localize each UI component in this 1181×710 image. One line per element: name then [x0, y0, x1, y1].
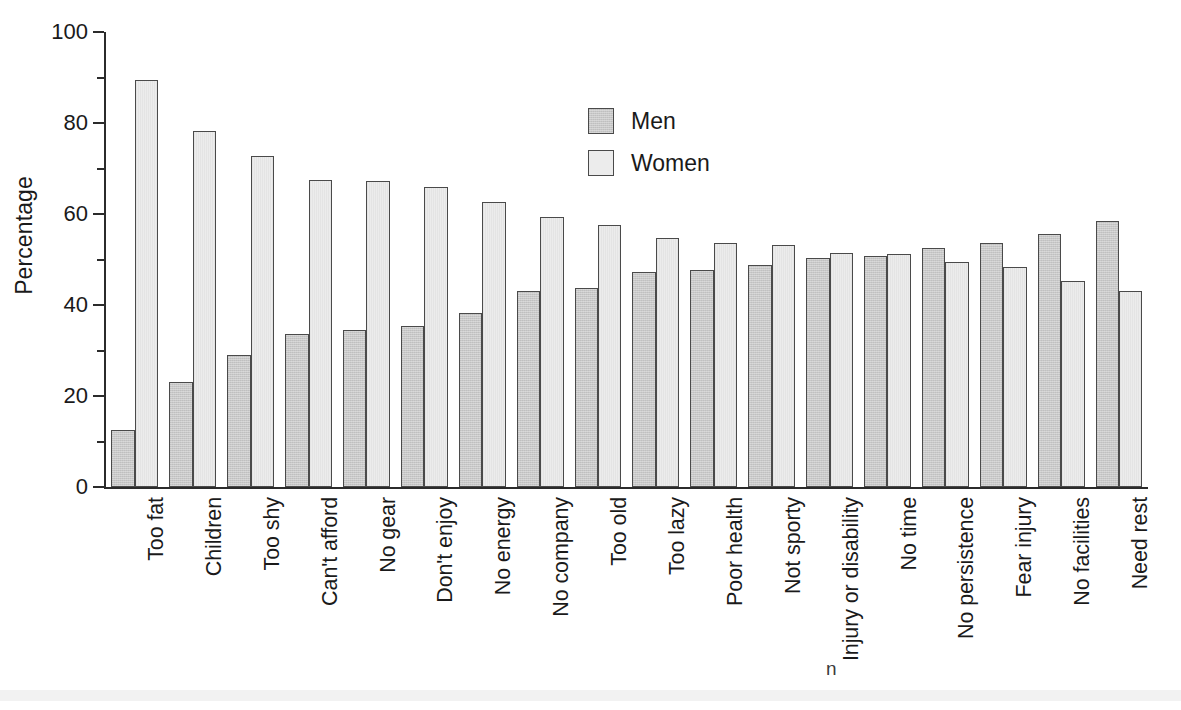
bar-men — [517, 291, 540, 487]
bar-women — [1061, 281, 1084, 487]
y-tick-major — [93, 486, 104, 488]
bar-group — [974, 32, 1032, 487]
y-tick-major — [93, 31, 104, 33]
bar-men — [343, 330, 366, 487]
bar-women — [482, 202, 505, 487]
y-tick-minor — [97, 441, 104, 443]
y-tick-minor — [97, 259, 104, 261]
y-tick-label: 20 — [64, 383, 88, 409]
x-axis-label: Not sporty — [781, 497, 806, 594]
bar-group — [164, 32, 222, 487]
bar-group — [1032, 32, 1090, 487]
bar-men — [690, 270, 713, 487]
bar-women — [887, 254, 910, 487]
y-tick-major — [93, 395, 104, 397]
y-tick-major — [93, 304, 104, 306]
bar-men — [980, 243, 1003, 487]
x-axis-label: No facilities — [1070, 497, 1095, 606]
x-axis-label: Too fat — [144, 497, 169, 561]
x-axis-label: Fear injury — [1012, 497, 1037, 597]
y-tick-label: 0 — [76, 474, 88, 500]
legend-swatch-men — [588, 108, 614, 134]
bar-women — [945, 262, 968, 487]
bar-group — [859, 32, 917, 487]
x-axis-label: No company — [549, 497, 574, 617]
bar-men — [1096, 221, 1119, 487]
bar-group — [453, 32, 511, 487]
bar-men — [169, 382, 192, 487]
x-axis-label: Injury or disability — [839, 497, 864, 661]
scan-artifact-band — [0, 690, 1181, 701]
bar-men — [632, 272, 655, 487]
bar-women — [1119, 291, 1142, 487]
y-tick-label: 40 — [64, 292, 88, 318]
bar-women — [424, 187, 447, 487]
x-axis-category-labels: Too fatChildrenToo shyCan't affordNo gea… — [106, 489, 1148, 699]
legend-item: Women — [588, 142, 788, 184]
bar-women — [135, 80, 158, 487]
bar-women — [656, 238, 679, 487]
bar-group — [511, 32, 569, 487]
x-axis-label: Too old — [607, 497, 632, 566]
bar-men — [575, 288, 598, 487]
y-tick-label: 60 — [64, 201, 88, 227]
legend-label: Men — [631, 108, 676, 135]
bar-women — [309, 180, 332, 487]
legend-item: Men — [588, 100, 788, 142]
bar-women — [1003, 267, 1026, 487]
bar-group — [106, 32, 164, 487]
bar-women — [193, 131, 216, 487]
bar-women — [714, 243, 737, 487]
scan-artifact-mark: n — [826, 658, 837, 680]
y-tick-major — [93, 122, 104, 124]
bar-group — [222, 32, 280, 487]
bar-men — [285, 334, 308, 487]
y-tick-major — [93, 213, 104, 215]
bar-women — [598, 225, 621, 487]
bar-men — [922, 248, 945, 487]
x-axis-label: Don't enjoy — [433, 497, 458, 603]
x-axis-label: Can't afford — [318, 497, 343, 606]
bar-men — [864, 256, 887, 487]
x-axis-label: Need rest — [1128, 497, 1153, 589]
legend-label: Women — [631, 150, 710, 177]
bar-women — [540, 217, 563, 487]
bar-group — [395, 32, 453, 487]
x-axis-label: Too lazy — [665, 497, 690, 575]
bar-group — [801, 32, 859, 487]
bar-women — [830, 253, 853, 487]
bar-men — [806, 258, 829, 487]
x-axis-label: No energy — [491, 497, 516, 595]
x-axis-label: Children — [202, 497, 227, 576]
bar-men — [748, 265, 771, 487]
bar-women — [366, 181, 389, 487]
bar-men — [1038, 234, 1061, 487]
legend-swatch-women — [588, 150, 614, 176]
chart-legend: MenWomen — [588, 100, 788, 184]
x-axis-label: Poor health — [723, 497, 748, 606]
bar-group — [916, 32, 974, 487]
x-axis-label: No time — [897, 497, 922, 570]
y-tick-label: 80 — [64, 110, 88, 136]
bar-group — [280, 32, 338, 487]
bar-men — [401, 326, 424, 487]
bar-group — [1090, 32, 1148, 487]
bar-women — [251, 156, 274, 487]
x-axis-label: No gear — [376, 497, 401, 573]
y-tick-minor — [97, 168, 104, 170]
y-tick-minor — [97, 350, 104, 352]
bar-men — [459, 313, 482, 487]
bar-men — [111, 430, 134, 487]
x-axis-label: No persistence — [954, 497, 979, 639]
y-tick-label: 100 — [51, 19, 88, 45]
y-axis-ticks: 020406080100 — [0, 0, 104, 710]
bar-chart-figure: Percentage 020406080100 Too fatChildrenT… — [0, 0, 1181, 710]
bar-group — [338, 32, 396, 487]
y-tick-minor — [97, 77, 104, 79]
bar-men — [227, 355, 250, 487]
x-axis-label: Too shy — [260, 497, 285, 570]
bar-women — [772, 245, 795, 487]
